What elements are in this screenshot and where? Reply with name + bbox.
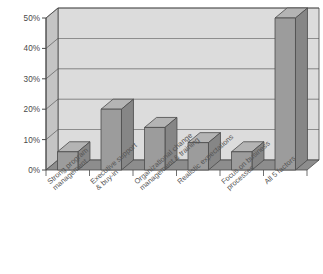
y-axis-tick-label: 20% xyxy=(24,105,40,114)
y-axis-tick-label: 50% xyxy=(24,14,40,23)
y-axis-tick-label: 30% xyxy=(24,75,40,84)
plot-left-wall xyxy=(46,8,58,170)
y-axis-tick-label: 40% xyxy=(24,44,40,53)
bar-front-face xyxy=(275,18,295,170)
bar-side-face xyxy=(295,8,307,170)
bar-chart-plot: 0%10%20%30%40%50% xyxy=(0,0,323,274)
bar xyxy=(275,8,307,170)
y-axis-tick-label: 0% xyxy=(28,166,40,175)
chart-container: 0%10%20%30%40%50% Strong programmanageme… xyxy=(0,0,323,274)
y-axis-tick-label: 10% xyxy=(24,136,40,145)
